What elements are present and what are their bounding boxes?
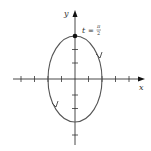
point-t-pi-over-2: [73, 34, 78, 39]
ellipse-diagram: x y t = π 2: [0, 0, 151, 151]
direction-arrow-icon: [52, 101, 58, 107]
y-axis-arrow-icon: [73, 10, 78, 17]
point-label-num: π: [96, 23, 101, 29]
x-axis: [13, 76, 145, 82]
y-axis: [72, 10, 78, 145]
x-axis-arrow-icon: [138, 77, 145, 82]
point-label-t: t: [82, 26, 86, 35]
point-label-eq: =: [88, 27, 94, 35]
point-label-den: 2: [97, 30, 100, 36]
point-label: t = π 2: [82, 23, 101, 36]
x-axis-label: x: [139, 83, 144, 92]
y-axis-label: y: [63, 9, 69, 18]
